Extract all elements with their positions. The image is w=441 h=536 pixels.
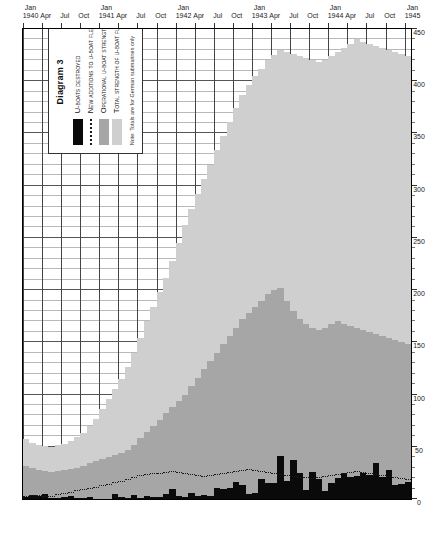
time-axis-month: Jan (177, 4, 188, 11)
time-axis-tick (80, 23, 81, 28)
time-axis-year: 1945 (404, 12, 420, 20)
time-axis-month: Jul (60, 12, 69, 19)
new-additions-marker (61, 493, 67, 494)
new-additions-marker (68, 492, 74, 493)
value-axis-tick (412, 488, 415, 489)
value-axis-tick (412, 352, 415, 353)
new-additions-marker (328, 475, 334, 476)
time-axis-month: Jan (254, 4, 265, 11)
new-additions-marker (214, 474, 220, 475)
value-axis-tick (412, 467, 415, 468)
time-axis-label: Apr (193, 12, 204, 20)
legend-title: Diagram 3 (55, 28, 65, 145)
value-axis-tick (412, 268, 415, 269)
value-axis-label: 0 (417, 499, 421, 506)
value-axis-tick (412, 373, 415, 374)
new-additions-marker (239, 470, 245, 471)
time-axis-tick (157, 23, 158, 28)
time-axis-year: 1941 (99, 12, 115, 20)
value-axis-tick (412, 300, 415, 301)
value-axis-tick (412, 153, 415, 154)
new-additions-marker (80, 489, 86, 490)
time-axis-month: Apr (269, 12, 280, 19)
time-axis-label: Jan1940 (23, 4, 39, 19)
time-axis-label: Jul (366, 12, 375, 20)
value-axis-tick (412, 477, 415, 478)
legend-swatch-dotted (90, 119, 92, 145)
time-axis-tick (176, 23, 177, 28)
legend-item-label: Operational U-Boat Strength (99, 28, 108, 113)
time-axis-tick (137, 23, 138, 28)
new-additions-marker (125, 479, 131, 480)
value-axis-label: 300 (413, 186, 425, 193)
value-axis-label: 400 (413, 81, 425, 88)
time-axis-label: Apr (117, 12, 128, 20)
legend-item: New Additions to U-Boat Fleet (84, 28, 97, 145)
value-axis: 050100150200250300350400450 (412, 28, 441, 500)
value-axis-tick (412, 206, 415, 207)
time-axis-month: Oct (155, 12, 166, 19)
new-additions-marker (227, 472, 233, 473)
time-axis-month: Jan (25, 4, 36, 11)
value-axis-label: 250 (413, 238, 425, 245)
time-axis-label: Apr (269, 12, 280, 20)
value-axis-tick (412, 164, 415, 165)
legend-item: Operational U-Boat Strength (97, 28, 110, 145)
value-axis-label: 200 (413, 290, 425, 297)
legend-rows: U-Boats DestroyedNew Additions to U-Boat… (71, 28, 123, 145)
time-axis-label: Jan1943 (252, 4, 268, 19)
value-axis-tick (412, 425, 415, 426)
legend-item-label: U-Boats Destroyed (73, 56, 82, 114)
value-axis-label: 100 (413, 395, 425, 402)
value-axis-tick (412, 456, 415, 457)
value-axis-tick (412, 143, 415, 144)
value-axis-tick (412, 38, 415, 39)
new-additions-marker (23, 496, 29, 497)
time-axis-tick (23, 23, 24, 28)
time-axis-tick (214, 23, 215, 28)
value-axis-tick (412, 279, 415, 280)
value-axis-tick (412, 101, 415, 102)
new-additions-marker (106, 484, 112, 485)
rotated-chart-canvas: Diagram 3 U-Boats DestroyedNew Additions… (0, 0, 441, 536)
new-additions-marker (131, 477, 137, 478)
time-axis-label: Jul (289, 12, 298, 20)
time-axis-tick (99, 23, 100, 28)
time-axis-label: Jan1942 (175, 4, 191, 19)
value-axis-tick (412, 310, 415, 311)
new-additions-marker (93, 487, 99, 488)
time-axis-year: 1944 (328, 12, 344, 20)
time-axis-tick (366, 23, 367, 28)
value-axis-tick (412, 258, 415, 259)
time-axis-year: 1940 (23, 12, 39, 20)
time-axis-label: Jan1945 (404, 4, 420, 19)
legend-swatch-mid (99, 119, 109, 145)
time-axis-year: 1943 (252, 12, 268, 20)
time-axis-tick (405, 23, 406, 28)
new-additions-marker (233, 471, 239, 472)
value-axis-tick (412, 195, 415, 196)
value-axis-tick (412, 122, 415, 123)
new-additions-marker (87, 488, 93, 489)
value-axis-tick (412, 404, 415, 405)
new-additions-marker (207, 475, 213, 476)
value-axis-tick (412, 331, 415, 332)
time-axis-label: Jul (137, 12, 146, 20)
time-axis-month: Apr (40, 12, 51, 19)
time-axis-month: Jul (137, 12, 146, 19)
legend-note: Note: Totals are for German submarines o… (129, 28, 135, 145)
time-axis-label: Oct (308, 12, 319, 20)
time-axis-label: Oct (231, 12, 242, 20)
new-additions-marker (118, 481, 124, 482)
new-additions-marker (347, 472, 353, 473)
time-axis-month: Jan (406, 4, 417, 11)
plot-area: Diagram 3 U-Boats DestroyedNew Additions… (22, 28, 412, 500)
new-additions-marker (322, 476, 328, 477)
new-additions-marker (316, 477, 322, 478)
value-axis-tick (412, 247, 415, 248)
legend-item-label: Total Strength of U-Boat Fleet (112, 28, 121, 113)
time-axis-tick (386, 23, 387, 28)
value-axis-label: 450 (413, 29, 425, 36)
time-axis-label: Oct (155, 12, 166, 20)
time-axis-month: Jan (101, 4, 112, 11)
